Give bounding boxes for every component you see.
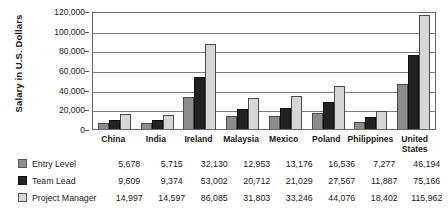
- y-axis-title: Salary in U.S. Dollars: [13, 0, 24, 129]
- value-cell: 9,374: [151, 176, 194, 186]
- value-cell: 86,085: [193, 193, 236, 203]
- value-cell: 9,609: [108, 176, 151, 186]
- y-tick-mark: [85, 91, 89, 92]
- value-cell: 75,166: [406, 176, 448, 186]
- legend-item: Team Lead: [0, 176, 108, 186]
- legend-data-table: Entry Level5,6785,71532,13012,95313,1761…: [0, 155, 448, 214]
- salary-chart-figure: Salary in U.S. Dollars 120,000100,00080,…: [0, 0, 448, 214]
- value-cell: 14,997: [108, 193, 151, 203]
- value-cell: 20,712: [236, 176, 279, 186]
- value-cell: 21,029: [278, 176, 321, 186]
- chart-area: Salary in U.S. Dollars 120,000100,00080,…: [0, 0, 448, 150]
- bar-group: [141, 13, 174, 129]
- value-cell: 32,130: [193, 159, 236, 169]
- y-tick-label: 0: [23, 125, 85, 135]
- table-row: Project Manager14,99714,59786,08531,8033…: [0, 189, 448, 206]
- bar: [109, 120, 120, 129]
- value-cell: 27,567: [321, 176, 364, 186]
- value-cell: 11,887: [363, 176, 406, 186]
- value-cell: 16,536: [321, 159, 364, 169]
- bar-group: [312, 13, 345, 129]
- bar: [120, 114, 131, 129]
- y-axis-ticks: 120,000100,00080,00060,00040,00020,0000: [24, 7, 88, 135]
- value-cell: 13,176: [278, 159, 321, 169]
- bar-group: [183, 13, 216, 129]
- y-tick-mark: [85, 32, 89, 33]
- value-cell: 53,002: [193, 176, 236, 186]
- legend-label: Team Lead: [32, 176, 76, 186]
- bar: [205, 44, 216, 129]
- bar: [98, 123, 109, 129]
- bar: [334, 86, 345, 129]
- y-tick-label: 80,000: [23, 46, 85, 56]
- bar: [194, 77, 205, 129]
- bar-group: [269, 13, 302, 129]
- value-cell: 7,277: [363, 159, 406, 169]
- y-tick-label: 20,000: [23, 105, 85, 115]
- bar-groups: [93, 13, 435, 129]
- legend-swatch-icon: [18, 176, 27, 185]
- bar: [376, 111, 387, 129]
- bar: [152, 120, 163, 129]
- y-tick-label: 120,000: [23, 7, 85, 17]
- bar: [183, 97, 194, 129]
- value-cells: 9,6099,37453,00220,71221,02927,56711,887…: [108, 176, 448, 186]
- bar: [408, 55, 419, 129]
- bar: [141, 123, 152, 129]
- bar-group: [226, 13, 259, 129]
- value-cell: 44,076: [321, 193, 364, 203]
- value-cells: 5,6785,71532,13012,95313,17616,5367,2774…: [108, 159, 448, 169]
- legend-label: Project Manager: [32, 193, 97, 203]
- value-cell: 46,194: [406, 159, 448, 169]
- value-cell: 18,402: [363, 193, 406, 203]
- y-tick-label: 40,000: [23, 86, 85, 96]
- x-axis-label: Philippines: [348, 133, 394, 157]
- bar: [226, 116, 237, 129]
- x-axis-label: United States: [393, 133, 436, 157]
- bar: [269, 116, 280, 129]
- y-tick-mark: [85, 51, 89, 52]
- y-tick-label: 60,000: [23, 66, 85, 76]
- x-axis-label: India: [135, 133, 178, 157]
- y-tick-mark: [85, 12, 89, 13]
- legend-item: Project Manager: [0, 193, 108, 203]
- value-cell: 14,597: [151, 193, 194, 203]
- x-axis-label: Poland: [305, 133, 348, 157]
- value-cell: 31,803: [236, 193, 279, 203]
- y-tick-mark: [85, 130, 89, 131]
- legend-item: Entry Level: [0, 159, 108, 169]
- bar: [397, 84, 408, 129]
- legend-swatch-icon: [18, 193, 27, 202]
- bar: [312, 113, 323, 129]
- x-axis-label: Malaysia: [220, 133, 263, 157]
- x-axis-label: Mexico: [262, 133, 305, 157]
- bar: [291, 96, 302, 129]
- bar-group: [354, 13, 387, 129]
- legend-swatch-icon: [18, 159, 27, 168]
- value-cells: 14,99714,59786,08531,80333,24644,07618,4…: [108, 193, 448, 203]
- bar: [365, 117, 376, 129]
- bar: [354, 122, 365, 129]
- y-tick-mark: [85, 110, 89, 111]
- x-axis-label: China: [92, 133, 135, 157]
- bar: [323, 102, 334, 129]
- value-cell: 5,678: [108, 159, 151, 169]
- value-cell: 5,715: [151, 159, 194, 169]
- y-tick-label: 100,000: [23, 27, 85, 37]
- bar: [248, 98, 259, 129]
- bar: [237, 109, 248, 129]
- bar-group: [397, 13, 430, 129]
- legend-label: Entry Level: [32, 159, 76, 169]
- plot-area: [92, 12, 436, 130]
- y-tick-mark: [85, 71, 89, 72]
- bar: [280, 108, 291, 129]
- x-axis-label: Ireland: [177, 133, 220, 157]
- x-axis-labels: ChinaIndiaIrelandMalaysiaMexicoPolandPhi…: [92, 133, 436, 157]
- value-cell: 33,246: [278, 193, 321, 203]
- bar: [163, 115, 174, 129]
- table-row: Entry Level5,6785,71532,13012,95313,1761…: [0, 155, 448, 172]
- table-row: Team Lead9,6099,37453,00220,71221,02927,…: [0, 172, 448, 189]
- value-cell: 12,953: [236, 159, 279, 169]
- value-cell: 115,962: [406, 193, 448, 203]
- bar-group: [98, 13, 131, 129]
